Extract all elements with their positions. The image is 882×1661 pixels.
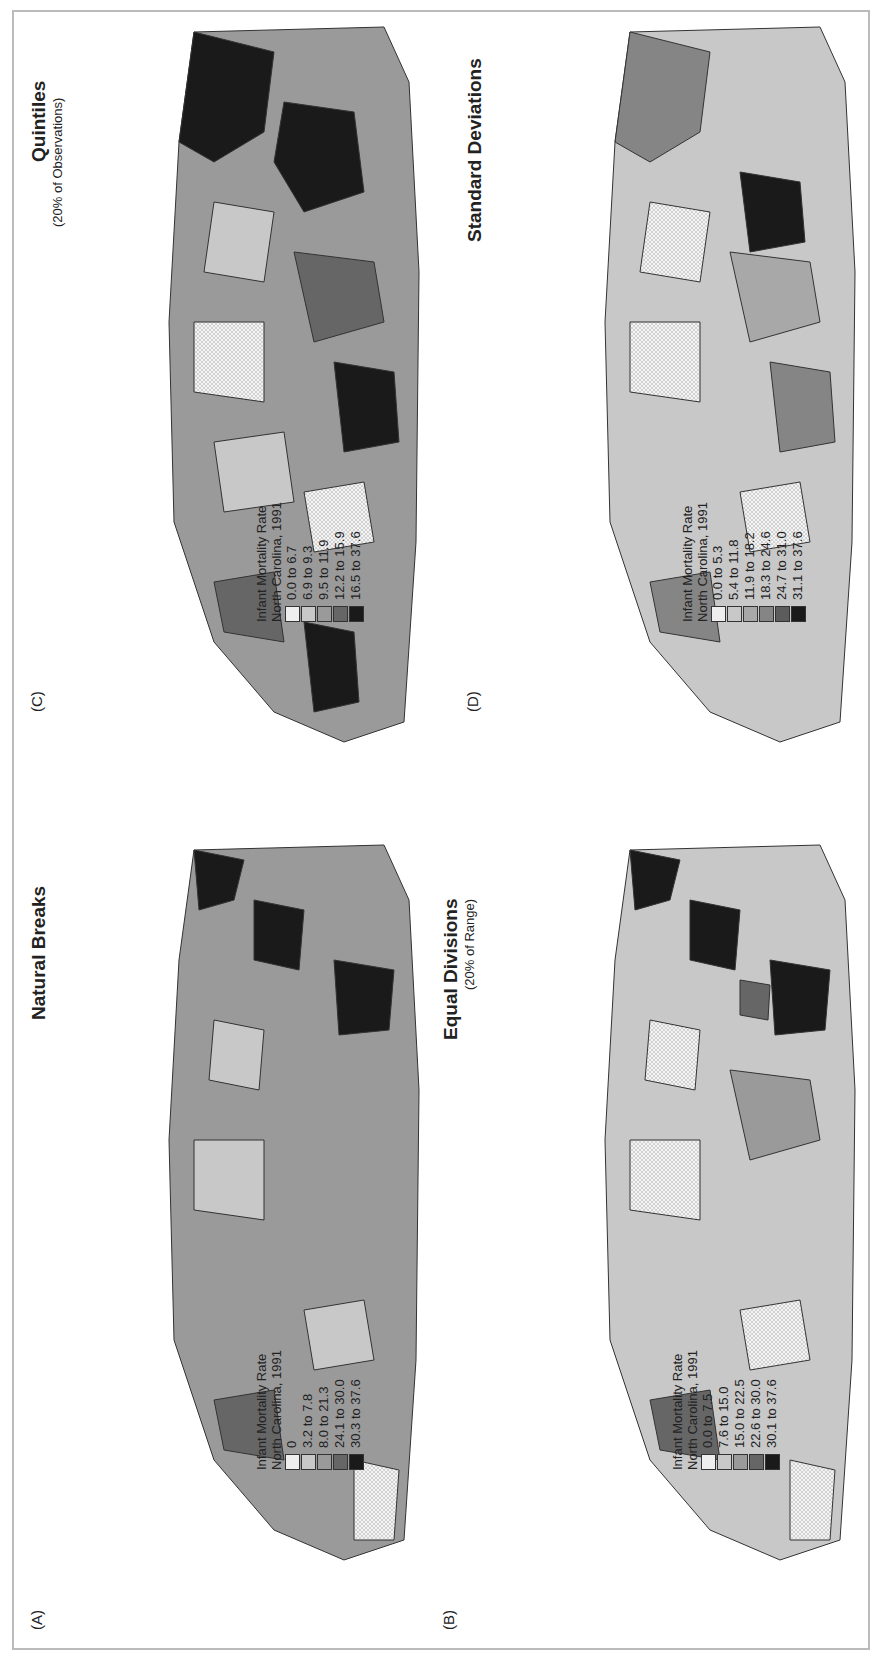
legend-title-line2: North Carolina, 1991 [269,1350,284,1470]
legend-swatch [727,606,742,622]
legend-item: 6.9 to 9.3 [300,502,316,622]
legend-item: 0.0 to 5.3 [710,502,726,622]
nc-county-map-standard-deviations [590,22,860,752]
legend-item: 0.0 to 6.7 [284,502,300,622]
legend: Infant Mortality Rate North Carolina, 19… [670,1350,780,1470]
legend-item: 24.7 to 31.0 [774,502,790,622]
legend-item: 30.3 to 37.6 [348,1350,364,1470]
legend-swatch [301,606,316,622]
panel-label: (C) [28,691,45,712]
legend-swatch [317,606,332,622]
legend-swatch [285,1454,300,1470]
panel-natural-breaks: Natural Breaks (A) Infant Mortality Rate… [14,840,434,1630]
panel-quintiles: Quintiles (20% of Observations) (C) Infa… [14,12,434,802]
legend-item: 11.9 to 18.2 [742,502,758,622]
legend-title-line1: Infant Mortality Rate [254,502,269,622]
panel-title: Natural Breaks [28,886,50,1020]
legend-item: 9.5 to 11.9 [316,502,332,622]
legend-item: 22.6 to 30.0 [748,1350,764,1470]
legend-swatch [317,1454,332,1470]
legend-swatch [333,606,348,622]
panel-standard-deviations: Standard Deviations (D) Infant Mortality… [450,12,870,802]
legend-title-line1: Infant Mortality Rate [680,502,695,622]
panel-subtitle: (20% of Observations) [50,98,65,227]
legend-item: 12.2 to 15.9 [332,502,348,622]
panel-title: Quintiles [28,81,50,162]
legend-title-line2: North Carolina, 1991 [269,502,284,622]
legend-title-line2: North Carolina, 1991 [695,502,710,622]
legend-swatch [743,606,758,622]
legend-item: 15.0 to 22.5 [732,1350,748,1470]
panel-label: (A) [28,1610,45,1630]
legend: Infant Mortality Rate North Carolina, 19… [254,1350,364,1470]
legend-swatch [717,1454,732,1470]
legend-swatch [301,1454,316,1470]
panel-subtitle: (20% of Range) [462,899,477,990]
legend-item: 8.0 to 21.3 [316,1350,332,1470]
legend-swatch [765,1454,780,1470]
legend-item: 5.4 to 11.8 [726,502,742,622]
panel-label: (B) [440,1610,457,1630]
legend-item: 7.6 to 15.0 [716,1350,732,1470]
legend-swatch [775,606,790,622]
nc-county-map-quintiles [154,22,424,752]
legend-swatch [791,606,806,622]
legend-title-line2: North Carolina, 1991 [685,1350,700,1470]
legend-item: 0.0 to 7.5 [700,1350,716,1470]
legend-swatch [285,606,300,622]
legend-item: 30.1 to 37.6 [764,1350,780,1470]
panel-label: (D) [464,691,481,712]
legend-item: 18.3 to 24.6 [758,502,774,622]
panel-title: Standard Deviations [464,58,486,242]
legend: Infant Mortality Rate North Carolina, 19… [680,502,806,622]
legend-swatch [333,1454,348,1470]
legend-swatch [349,606,364,622]
legend-swatch [349,1454,364,1470]
legend-item: 31.1 to 37.6 [790,502,806,622]
legend-swatch [759,606,774,622]
legend-swatch [701,1454,716,1470]
legend-item: 24.1 to 30.0 [332,1350,348,1470]
legend-swatch [733,1454,748,1470]
legend-item: 3.2 to 7.8 [300,1350,316,1470]
panel-equal-divisions: Equal Divisions (20% of Range) (B) Infan… [450,840,870,1630]
panel-title: Equal Divisions [440,899,462,1040]
legend: Infant Mortality Rate North Carolina, 19… [254,502,364,622]
legend-item: 16.5 to 37.6 [348,502,364,622]
legend-swatch [711,606,726,622]
legend-item: 0 [284,1350,300,1470]
legend-title-line1: Infant Mortality Rate [254,1350,269,1470]
legend-title-line1: Infant Mortality Rate [670,1350,685,1470]
legend-swatch [749,1454,764,1470]
